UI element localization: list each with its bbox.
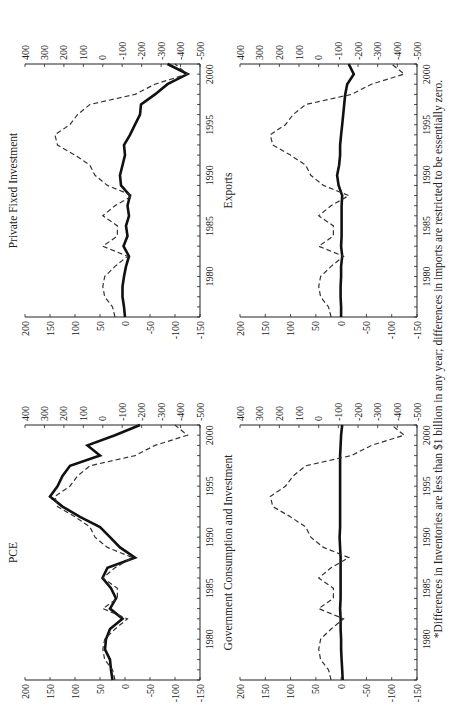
- left-axis-tick-label: 100: [70, 684, 81, 699]
- right-axis-tick-label: -500: [412, 403, 423, 421]
- right-axis-tick-label: 400: [235, 406, 246, 421]
- left-axis-tick-label: 150: [260, 684, 271, 699]
- right-axis-tick-label: 100: [294, 45, 305, 60]
- left-axis-tick-label: -150: [195, 684, 206, 702]
- right-axis-tick-label: -100: [333, 42, 344, 60]
- right-axis-tick-label: -100: [117, 42, 128, 60]
- left-axis-tick-label: 200: [235, 684, 246, 699]
- right-axis-tick-label: 0: [313, 55, 324, 60]
- x-axis-tick-label: 1990: [421, 527, 432, 547]
- x-axis-tick-label: 1995: [421, 115, 432, 135]
- left-axis-tick-label: 100: [70, 321, 81, 336]
- right-axis-tick-label: -500: [412, 42, 423, 60]
- left-axis-tick-label: 200: [20, 684, 31, 699]
- left-axis-tick-label: 150: [45, 321, 56, 336]
- solid-series-line: [340, 425, 343, 680]
- x-axis-tick-label: 2000: [421, 64, 432, 84]
- left-axis-tick-label: 100: [285, 321, 296, 336]
- x-axis-tick-label: 1985: [421, 578, 432, 598]
- left-axis-tick-label: -150: [195, 321, 206, 339]
- left-axis-tick-label: 150: [45, 684, 56, 699]
- panel-title: Private Fixed Investment: [7, 132, 19, 248]
- left-axis-tick-label: 150: [260, 321, 271, 336]
- right-axis-tick-label: 0: [97, 416, 108, 421]
- right-axis-tick-label: 300: [39, 45, 50, 60]
- right-axis-tick-label: -500: [195, 42, 206, 60]
- x-axis-tick-label: 1990: [204, 527, 215, 547]
- right-axis-tick-label: -200: [136, 403, 147, 421]
- right-axis-tick-label: 200: [274, 406, 285, 421]
- left-axis-tick-label: -150: [412, 684, 423, 702]
- right-axis-tick-label: -400: [392, 403, 403, 421]
- right-axis-tick-label: 100: [78, 45, 89, 60]
- right-axis-tick-label: 300: [254, 45, 265, 60]
- x-axis-tick-label: 1985: [204, 578, 215, 598]
- figure-page: PCE200150100500-50-100-1504003002001000-…: [0, 0, 458, 718]
- right-axis-tick-label: 100: [78, 406, 89, 421]
- x-axis-tick-label: 1985: [421, 216, 432, 236]
- right-axis-tick-label: 400: [235, 45, 246, 60]
- right-axis-tick-label: -500: [195, 403, 206, 421]
- x-axis-tick-label: 2000: [421, 425, 432, 445]
- x-axis-tick-label: 1995: [204, 115, 215, 135]
- footnote: *Differences in Inventories are less tha…: [432, 0, 444, 718]
- left-axis-tick-label: 50: [310, 684, 321, 694]
- right-axis-tick-label: -300: [156, 403, 167, 421]
- x-axis-tick-label: 1980: [421, 629, 432, 649]
- left-axis-tick-label: -50: [361, 321, 372, 334]
- x-axis-tick-label: 1990: [421, 165, 432, 185]
- left-axis-tick-label: -100: [170, 321, 181, 339]
- left-axis-tick-label: -100: [386, 321, 397, 339]
- left-axis-tick-label: -100: [170, 684, 181, 702]
- panel-title: Exports: [222, 172, 235, 208]
- left-axis-tick-label: -50: [145, 684, 156, 697]
- solid-series-line: [50, 425, 140, 680]
- left-axis-tick-label: -100: [386, 684, 397, 702]
- dashed-series-line: [270, 64, 404, 317]
- right-axis-tick-label: 100: [294, 406, 305, 421]
- x-axis-tick-label: 1980: [421, 267, 432, 287]
- x-axis-tick-label: 2000: [204, 64, 215, 84]
- left-axis-tick-label: 50: [95, 684, 106, 694]
- right-axis-tick-label: -400: [175, 403, 186, 421]
- panel-government-consumption-and-investment: Government Consumption and Investment200…: [222, 403, 432, 703]
- left-axis-tick-label: 0: [120, 321, 131, 326]
- panel-title: PCE: [7, 542, 19, 563]
- solid-series-line: [337, 64, 354, 317]
- right-axis-tick-label: 300: [254, 406, 265, 421]
- x-axis-tick-label: 1990: [204, 165, 215, 185]
- right-axis-tick-label: -400: [392, 42, 403, 60]
- right-axis-tick-label: -400: [175, 42, 186, 60]
- right-axis-tick-label: -200: [353, 42, 364, 60]
- panel-exports: Exports200150100500-50-100-1504003002001…: [222, 42, 432, 340]
- right-axis-tick-label: 200: [58, 406, 69, 421]
- right-axis-tick-label: -100: [117, 403, 128, 421]
- right-axis-tick-label: 300: [39, 406, 50, 421]
- right-axis-tick-label: -300: [372, 403, 383, 421]
- left-axis-tick-label: 50: [310, 321, 321, 331]
- right-axis-tick-label: 0: [97, 55, 108, 60]
- left-axis-tick-label: -50: [361, 684, 372, 697]
- left-axis-tick-label: 50: [95, 321, 106, 331]
- x-axis-tick-label: 1985: [204, 216, 215, 236]
- panel-title: Government Consumption and Investment: [222, 454, 235, 651]
- left-axis-tick-label: -150: [412, 321, 423, 339]
- right-axis-tick-label: -300: [156, 42, 167, 60]
- right-axis-tick-label: -200: [136, 42, 147, 60]
- left-axis-tick-label: 0: [120, 684, 131, 689]
- left-axis-tick-label: -50: [145, 321, 156, 334]
- right-axis-tick-label: 200: [274, 45, 285, 60]
- left-axis-tick-label: 200: [20, 321, 31, 336]
- x-axis-tick-label: 1980: [204, 267, 215, 287]
- x-axis-tick-label: 2000: [204, 425, 215, 445]
- left-axis-tick-label: 0: [336, 321, 347, 326]
- x-axis-tick-label: 1995: [204, 476, 215, 496]
- panel-pce: PCE200150100500-50-100-1504003002001000-…: [7, 403, 215, 703]
- right-axis-tick-label: 400: [20, 45, 31, 60]
- x-axis-tick-label: 1980: [204, 629, 215, 649]
- right-axis-tick-label: -300: [372, 42, 383, 60]
- panel-private-fixed-investment: Private Fixed Investment200150100500-50-…: [7, 42, 215, 340]
- left-axis-tick-label: 200: [235, 321, 246, 336]
- right-axis-tick-label: 0: [313, 416, 324, 421]
- left-axis-tick-label: 100: [285, 684, 296, 699]
